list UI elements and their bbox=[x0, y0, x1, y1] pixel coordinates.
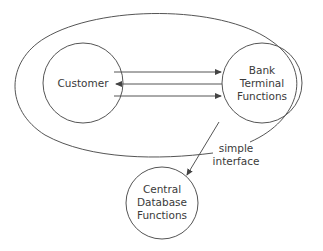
simple-interface-label: simple interface bbox=[206, 142, 266, 168]
customer-label: Customer bbox=[43, 77, 123, 90]
central-db-label: Central Database Functions bbox=[122, 183, 202, 222]
simple-interface-label-line-2: interface bbox=[206, 155, 266, 168]
simple-interface-label-line-1: simple bbox=[206, 142, 266, 155]
customer-label-line: Customer bbox=[43, 77, 123, 90]
bank-terminal-label: Bank Terminal Functions bbox=[222, 64, 302, 103]
central-db-label-line-1: Central bbox=[122, 183, 202, 196]
central-db-label-line-3: Functions bbox=[122, 209, 202, 222]
bank-terminal-label-line-1: Bank bbox=[222, 64, 302, 77]
bank-terminal-label-line-3: Functions bbox=[222, 90, 302, 103]
central-db-label-line-2: Database bbox=[122, 196, 202, 209]
bank-terminal-label-line-2: Terminal bbox=[222, 77, 302, 90]
